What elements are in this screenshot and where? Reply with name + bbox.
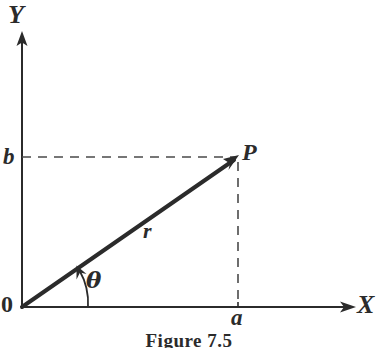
origin-label: 0 xyxy=(1,292,13,316)
radius-label: r xyxy=(143,220,152,242)
figure-caption: Figure 7.5 xyxy=(0,330,378,348)
x-axis xyxy=(22,302,356,313)
angle-label: θ xyxy=(86,268,101,291)
coordinate-diagram xyxy=(0,0,378,348)
x-axis-label: X xyxy=(357,292,374,318)
point-p-label: P xyxy=(242,140,257,164)
y-axis xyxy=(17,31,28,307)
figure-container: Y X 0 P b a r θ Figure 7.5 xyxy=(0,0,378,348)
abscissa-label: a xyxy=(231,306,243,329)
radius-vector xyxy=(22,155,239,307)
radius-line xyxy=(22,160,234,307)
ordinate-label: b xyxy=(3,145,15,168)
y-axis-label: Y xyxy=(8,2,24,28)
